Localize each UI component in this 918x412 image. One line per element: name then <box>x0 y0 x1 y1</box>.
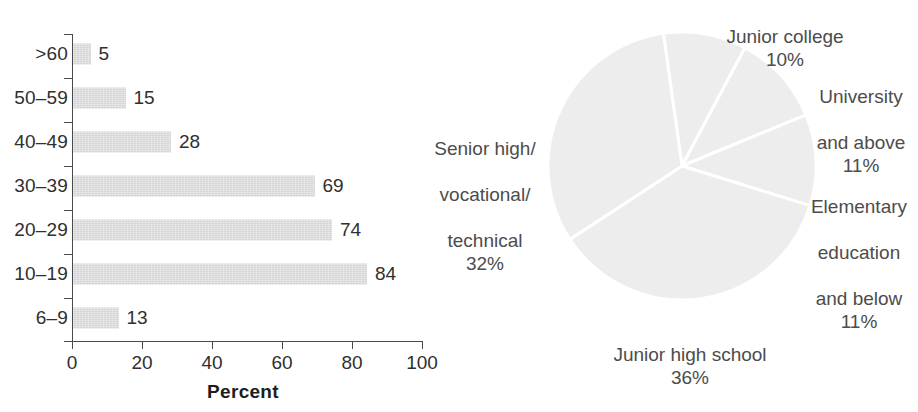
pie-chart: Junior college 10% University and above … <box>450 0 918 412</box>
pie-label-senior-high: Senior high/ vocational/ technical 32% <box>415 114 555 298</box>
x-axis-title-text: Percent <box>171 381 279 402</box>
x-axis-tick <box>352 341 353 349</box>
bar-value-label: 15 <box>134 87 155 109</box>
bar-category-label: 6–9 <box>36 307 68 329</box>
bar-row: 30–39 69 <box>0 166 450 206</box>
x-axis-tick-label: 40 <box>201 352 222 374</box>
y-axis-tick <box>64 254 73 255</box>
bar-value-label: 74 <box>340 219 361 241</box>
x-axis-tick <box>72 341 73 349</box>
bar-category-label: 50–59 <box>14 87 68 109</box>
x-axis-tick-label: 20 <box>131 352 152 374</box>
bar-fill <box>73 220 332 241</box>
bar-value-label: 28 <box>179 131 200 153</box>
pie-label-junior-high: Junior high school 36% <box>580 320 800 412</box>
pie-label-text: Senior high/ <box>434 138 535 159</box>
bar-track <box>73 176 315 197</box>
pie-label-text: Junior high school <box>613 344 766 365</box>
x-axis-tick-label: 80 <box>341 352 362 374</box>
y-axis-tick <box>64 210 73 211</box>
pie-label-text: technical <box>448 230 523 251</box>
bar-row: 6–9 13 <box>0 298 450 338</box>
bar-category-label: >60 <box>35 43 68 65</box>
x-axis-tick-label: 0 <box>67 352 78 374</box>
bar-category-label: 30–39 <box>14 175 68 197</box>
y-axis-tick <box>64 166 73 167</box>
pie-label-text: and below <box>816 288 903 309</box>
pie-percent-value: 36% <box>580 366 800 389</box>
bar-value-label: 5 <box>99 43 110 65</box>
y-axis-tick <box>64 298 73 299</box>
x-axis-tick <box>212 341 213 349</box>
bar-category-label: 10–19 <box>14 263 68 285</box>
bar-value-label: 69 <box>323 175 344 197</box>
x-axis-tick-label: 100 <box>406 352 438 374</box>
x-axis-tick <box>282 341 283 349</box>
bar-track <box>73 132 171 153</box>
pie-label-text: education <box>818 242 900 263</box>
bar-category-label: 40–49 <box>14 131 68 153</box>
bar-fill <box>73 44 91 65</box>
bar-track <box>73 44 91 65</box>
pie-label-text: University <box>819 86 902 107</box>
bar-track <box>73 88 126 109</box>
bar-row: 50–59 15 <box>0 78 450 118</box>
bar-row: >60 5 <box>0 34 450 74</box>
x-axis-tick <box>422 341 423 349</box>
pie-label-text: and above <box>817 132 906 153</box>
bar-fill <box>73 264 367 285</box>
bar-fill <box>73 132 171 153</box>
x-axis-tick-label: 60 <box>271 352 292 374</box>
pie-percent-value: 11% <box>798 310 918 333</box>
pie-label-elementary: Elementary education and below 11% <box>798 172 918 356</box>
bar-fill <box>73 88 126 109</box>
bar-row: 20–29 74 <box>0 210 450 250</box>
bar-track <box>73 308 119 329</box>
bar-chart: >60 5 50–59 15 40–49 28 30–39 69 <box>0 0 450 412</box>
bar-track <box>73 220 332 241</box>
bar-fill <box>73 308 119 329</box>
x-axis-tick <box>142 341 143 349</box>
y-axis-tick <box>64 78 73 79</box>
pie-label-text: vocational/ <box>440 184 531 205</box>
x-axis-title: Percent <box>0 381 450 403</box>
y-axis-tick <box>64 122 73 123</box>
pie-label-text: Elementary <box>811 196 907 217</box>
y-axis-tick <box>64 34 73 35</box>
pie-label-text: Junior college <box>726 26 843 47</box>
bar-value-label: 13 <box>127 307 148 329</box>
bar-row: 40–49 28 <box>0 122 450 162</box>
bar-value-label: 84 <box>375 263 396 285</box>
y-axis-line <box>72 34 73 342</box>
pie-percent-value: 32% <box>415 252 555 275</box>
bar-row: 10–19 84 <box>0 254 450 294</box>
x-axis-line <box>72 341 423 342</box>
figure-container: >60 5 50–59 15 40–49 28 30–39 69 <box>0 0 918 412</box>
bar-track <box>73 264 367 285</box>
bar-fill <box>73 176 315 197</box>
bar-category-label: 20–29 <box>14 219 68 241</box>
